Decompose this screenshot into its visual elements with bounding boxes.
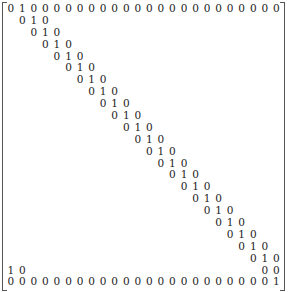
matrix-entry — [201, 241, 213, 253]
matrix-entry — [5, 169, 17, 181]
right-bracket — [280, 2, 285, 291]
matrix-entry — [109, 27, 121, 39]
matrix-entry — [97, 241, 109, 253]
matrix-entry: 0 — [120, 276, 132, 288]
matrix-entry — [167, 217, 179, 229]
matrix-entry — [201, 15, 213, 27]
matrix-entry: 0 — [167, 3, 179, 15]
matrix-entry — [109, 181, 121, 193]
matrix-entry — [109, 62, 121, 74]
matrix-entry — [28, 253, 40, 265]
matrix-entry — [224, 51, 236, 63]
matrix-entry — [63, 181, 75, 193]
matrix-entry — [51, 158, 63, 170]
matrix-entry: 0 — [132, 3, 144, 15]
matrix-entry — [5, 181, 17, 193]
matrix-entry — [109, 169, 121, 181]
matrix-entry — [190, 98, 202, 110]
matrix-entry — [132, 169, 144, 181]
matrix-entry — [17, 169, 29, 181]
matrix-entry — [17, 253, 29, 265]
matrix-entry — [40, 205, 52, 217]
matrix-entry — [97, 229, 109, 241]
matrix-entry — [201, 122, 213, 134]
matrix-entry: 0 — [109, 276, 121, 288]
matrix-entry — [190, 110, 202, 122]
matrix-entry — [63, 169, 75, 181]
matrix-entry — [17, 39, 29, 51]
matrix-entry — [63, 217, 75, 229]
matrix-entry: 0 — [201, 205, 213, 217]
matrix-entry — [224, 253, 236, 265]
matrix-entry — [28, 122, 40, 134]
matrix-entry — [213, 62, 225, 74]
matrix-entry — [40, 241, 52, 253]
matrix-entry: 0 — [190, 193, 202, 205]
matrix-entry — [17, 74, 29, 86]
matrix-entry — [17, 181, 29, 193]
matrix-entry — [109, 122, 121, 134]
matrix-entry — [167, 253, 179, 265]
matrix-entry — [74, 98, 86, 110]
matrix-entry — [97, 217, 109, 229]
matrix-entry — [5, 51, 17, 63]
matrix-entry — [97, 205, 109, 217]
matrix-entry — [120, 27, 132, 39]
matrix-entry: 0 — [167, 146, 179, 158]
matrix-entry — [144, 98, 156, 110]
matrix-entry: 0 — [109, 110, 121, 122]
matrix-entry — [97, 110, 109, 122]
matrix-entry — [5, 229, 17, 241]
matrix-entry — [5, 241, 17, 253]
matrix-entry: 0 — [155, 158, 167, 170]
matrix-entry — [86, 169, 98, 181]
matrix-entry — [63, 229, 75, 241]
matrix-entry: 0 — [40, 276, 52, 288]
matrix-entry: 1 — [51, 39, 63, 51]
matrix-entry — [51, 253, 63, 265]
matrix-entry — [74, 27, 86, 39]
matrix-entry — [5, 86, 17, 98]
matrix-entry — [224, 146, 236, 158]
matrix-entry — [201, 39, 213, 51]
matrix-entry — [259, 217, 271, 229]
matrix-entry — [63, 158, 75, 170]
matrix-entry — [86, 205, 98, 217]
matrix-entry — [28, 241, 40, 253]
matrix-entry — [86, 39, 98, 51]
matrix-entry: 0 — [97, 3, 109, 15]
matrix-entry — [63, 241, 75, 253]
matrix-entry — [17, 51, 29, 63]
matrix-entry — [259, 181, 271, 193]
matrix-entry: 0 — [51, 276, 63, 288]
matrix-entry — [132, 193, 144, 205]
matrix-entry — [17, 217, 29, 229]
matrix-entry — [132, 74, 144, 86]
matrix-entry — [120, 146, 132, 158]
matrix-entry: 0 — [259, 276, 271, 288]
matrix-entry — [178, 86, 190, 98]
matrix-entry — [201, 134, 213, 146]
matrix-entry — [86, 229, 98, 241]
matrix-entry — [144, 39, 156, 51]
matrix-entry — [86, 27, 98, 39]
matrix-entry — [63, 134, 75, 146]
matrix-entry — [247, 181, 259, 193]
matrix-entry — [74, 15, 86, 27]
matrix-entry — [224, 39, 236, 51]
matrix-entry — [167, 62, 179, 74]
matrix-entry — [17, 122, 29, 134]
matrix-entry — [144, 158, 156, 170]
matrix-entry — [201, 62, 213, 74]
matrix-entry: 0 — [190, 3, 202, 15]
matrix-entry — [97, 169, 109, 181]
matrix-entry — [86, 181, 98, 193]
matrix-entry — [155, 15, 167, 27]
matrix-entry — [28, 74, 40, 86]
matrix-entry — [51, 74, 63, 86]
matrix-entry — [51, 86, 63, 98]
matrix-entry — [201, 51, 213, 63]
matrix-entry: 0 — [109, 3, 121, 15]
matrix-entry — [28, 229, 40, 241]
matrix-entry — [201, 158, 213, 170]
